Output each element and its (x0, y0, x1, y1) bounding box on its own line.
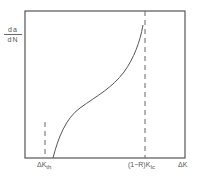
crack-growth-diagram: da dN ΔKth (1−R)KIc ΔK (0, 0, 199, 178)
critical-label: (1−R)KIc (128, 161, 155, 170)
critical-label-sub: Ic (150, 164, 155, 170)
plot-area (0, 0, 199, 178)
x-axis-label: ΔK (178, 161, 187, 168)
y-axis-denominator: dN (4, 35, 22, 43)
threshold-label-main: ΔK (37, 161, 46, 168)
y-axis-label: da dN (4, 26, 22, 43)
y-axis-numerator: da (4, 26, 22, 35)
plot-frame (25, 11, 185, 158)
threshold-label: ΔKth (37, 161, 51, 170)
growth-curve (53, 25, 143, 158)
threshold-label-sub: th (46, 164, 51, 170)
critical-label-main: (1−R)K (128, 161, 150, 168)
